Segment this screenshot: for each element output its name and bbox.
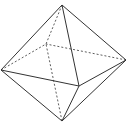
edge-left-front <box>1 70 79 86</box>
visible-edges <box>1 5 126 121</box>
edge-bottom-right <box>62 60 126 121</box>
edge-bottom-front <box>62 86 79 121</box>
hidden-edge-left-back <box>1 44 46 70</box>
hidden-edges <box>1 5 126 121</box>
hidden-edge-top-back <box>46 5 62 44</box>
hidden-edge-right-back <box>46 44 126 60</box>
edge-top-left <box>1 5 62 70</box>
octahedron-diagram <box>0 0 134 123</box>
